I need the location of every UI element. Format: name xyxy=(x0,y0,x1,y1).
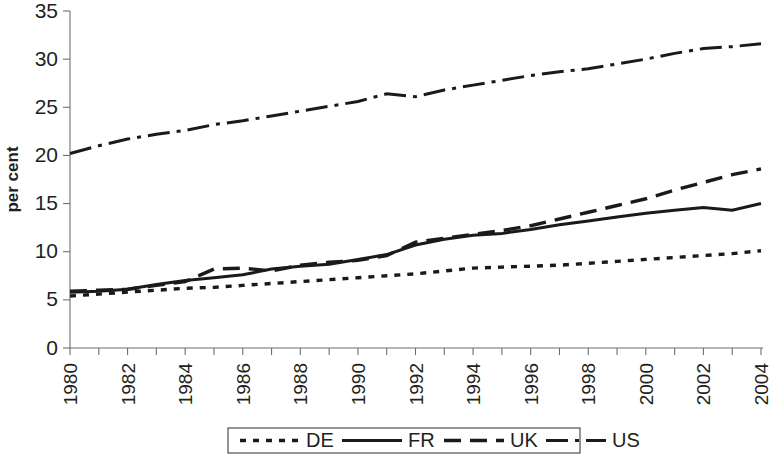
legend-label-fr: FR xyxy=(408,429,435,451)
y-tick-label: 35 xyxy=(35,0,58,22)
x-tick-label: 1996 xyxy=(521,363,542,405)
x-tick-label: 1998 xyxy=(578,363,599,405)
y-axis-title: per cent xyxy=(3,146,22,212)
x-tick-label: 1980 xyxy=(60,363,81,405)
series-line-fr xyxy=(70,204,761,293)
x-tick-label: 2004 xyxy=(751,363,772,406)
x-tick-label: 1992 xyxy=(406,363,427,405)
y-tick-label: 5 xyxy=(46,287,58,310)
y-tick-label: 25 xyxy=(35,95,58,118)
series-line-us xyxy=(70,44,761,154)
x-tick-label: 1988 xyxy=(290,363,311,405)
chart-canvas: 0510152025303519801982198419861988199019… xyxy=(0,0,777,459)
y-tick-label: 20 xyxy=(35,143,58,166)
y-tick-label: 30 xyxy=(35,47,58,70)
x-tick-label: 2002 xyxy=(693,363,714,405)
x-tick-label: 1984 xyxy=(175,363,196,406)
x-tick-label: 1982 xyxy=(118,363,139,405)
x-tick-label: 1994 xyxy=(463,363,484,406)
x-tick-label: 2000 xyxy=(636,363,657,405)
line-chart: 0510152025303519801982198419861988199019… xyxy=(0,0,777,459)
y-tick-label: 10 xyxy=(35,239,58,262)
legend-label-us: US xyxy=(612,429,640,451)
legend-label-uk: UK xyxy=(510,429,538,451)
y-tick-label: 0 xyxy=(46,336,58,359)
plot-area: 0510152025303519801982198419861988199019… xyxy=(3,0,772,453)
x-tick-label: 1986 xyxy=(233,363,254,405)
series-line-uk xyxy=(70,169,761,291)
y-tick-label: 15 xyxy=(35,191,58,214)
x-tick-label: 1990 xyxy=(348,363,369,405)
legend-label-de: DE xyxy=(306,429,334,451)
series-line-de xyxy=(70,251,761,296)
